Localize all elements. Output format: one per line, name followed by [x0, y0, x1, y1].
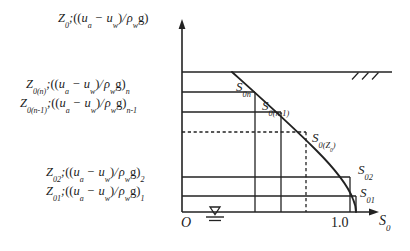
curve-point-label-s0n: S0n — [236, 80, 251, 93]
ground-surface-group — [182, 72, 392, 80]
y-axis-label-2: Z02;((ua − uw)/ρwg)2 — [46, 166, 144, 179]
y-axis-label-n-minus-1: Z0(n-1);((ua − uw)/ρwg)n-1 — [20, 97, 137, 110]
curve-point-label-s0z0: S0(Z0) — [312, 131, 336, 146]
y-axis-label-1: Z01;((ua − uw)/ρwg)1 — [46, 185, 144, 198]
x-tick-label-1: 1.0 — [331, 216, 349, 230]
x-axis-label: S0 — [379, 214, 390, 228]
groundwater-table-icon — [206, 207, 224, 221]
y-axis-label-top: Z0;((ua − uw)/ρwg) — [58, 12, 148, 25]
y-axis-arrow — [179, 19, 186, 29]
diagram-canvas — [0, 0, 410, 251]
curve-point-label-s02: S02 — [358, 163, 373, 176]
curve-point-label-s0n-minus-1: S0(n-1) — [262, 99, 289, 112]
y-axis-label-n: Z0(n);((ua − uw)/ρwg)n — [26, 78, 130, 91]
ground-surface-hatching-icon — [352, 73, 379, 80]
origin-label: O — [181, 216, 191, 230]
curve-point-label-s01: S01 — [360, 186, 375, 199]
x-axis-arrow — [369, 209, 379, 216]
